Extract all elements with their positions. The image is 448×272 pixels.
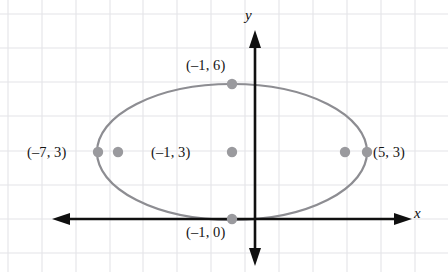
- point-left-focus: [113, 147, 123, 157]
- label-left-vertex: (–7, 3): [27, 144, 66, 161]
- point-center: [227, 147, 237, 157]
- y-axis-bottom-arrowhead: [249, 248, 261, 266]
- point-right-vertex: [362, 147, 372, 157]
- label-bottom-vertex: (–1, 0): [186, 224, 225, 241]
- y-axis-label: y: [245, 7, 252, 24]
- point-left-vertex: [93, 147, 103, 157]
- point-bottom-vertex: [227, 214, 237, 224]
- x-axis-label: x: [414, 205, 421, 222]
- point-right-focus: [340, 147, 350, 157]
- ellipse-graph-figure: (–7, 3) (5, 3) (–1, 3) (–1, 6) (–1, 0) x…: [0, 0, 448, 272]
- y-axis-top-arrowhead: [249, 30, 261, 48]
- label-top-vertex: (–1, 6): [186, 57, 225, 74]
- x-axis-right-arrowhead: [394, 213, 412, 225]
- label-right-vertex: (5, 3): [373, 144, 405, 161]
- point-top-vertex: [227, 79, 237, 89]
- label-center: (–1, 3): [151, 144, 190, 161]
- x-axis-left-arrowhead: [52, 213, 70, 225]
